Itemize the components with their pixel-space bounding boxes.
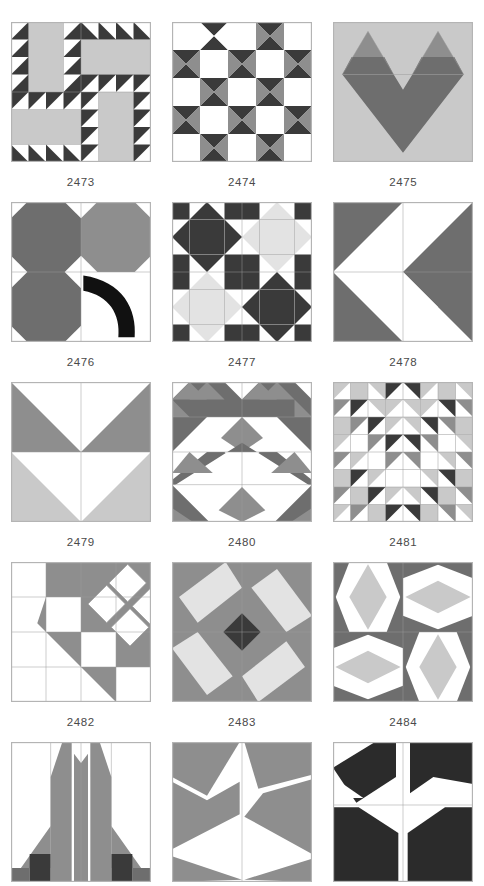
quilt-block-2481 — [333, 382, 473, 522]
block-cell-2484[interactable]: 2484 — [323, 562, 484, 742]
quilt-block-row5-a — [11, 742, 151, 882]
quilt-block-2482 — [11, 562, 151, 702]
block-cell-2473[interactable]: 2473 — [0, 22, 161, 202]
quilt-block-grid: 2473 — [0, 0, 484, 886]
quilt-block-2473 — [11, 22, 151, 162]
quilt-block-2480 — [172, 382, 312, 522]
quilt-block-2475 — [333, 22, 473, 162]
block-label-2484: 2484 — [389, 716, 417, 728]
quilt-block-2479 — [11, 382, 151, 522]
block-label-2482: 2482 — [67, 716, 95, 728]
quilt-block-2484 — [333, 562, 473, 702]
quilt-block-2476 — [11, 202, 151, 342]
block-cell-2474[interactable]: 2474 — [161, 22, 322, 202]
block-cell-2477[interactable]: 2477 — [161, 202, 322, 382]
block-label-2476: 2476 — [67, 356, 95, 368]
block-cell-2481[interactable]: 2481 — [323, 382, 484, 562]
block-cell-2476[interactable]: 2476 — [0, 202, 161, 382]
quilt-block-row5-b — [172, 742, 312, 882]
quilt-block-2483 — [172, 562, 312, 702]
block-cell-2480[interactable]: 2480 — [161, 382, 322, 562]
block-label-2483: 2483 — [228, 716, 256, 728]
block-label-2475: 2475 — [389, 176, 417, 188]
block-cell-2483[interactable]: 2483 — [161, 562, 322, 742]
quilt-block-2474 — [172, 22, 312, 162]
quilt-block-2477 — [172, 202, 312, 342]
block-label-2480: 2480 — [228, 536, 256, 548]
block-cell-2478[interactable]: 2478 — [323, 202, 484, 382]
block-cell-row5-c[interactable] — [323, 742, 484, 886]
block-label-2477: 2477 — [228, 356, 256, 368]
block-cell-row5-a[interactable] — [0, 742, 161, 886]
block-cell-2479[interactable]: 2479 — [0, 382, 161, 562]
block-label-2473: 2473 — [67, 176, 95, 188]
block-cell-2475[interactable]: 2475 — [323, 22, 484, 202]
block-label-2478: 2478 — [389, 356, 417, 368]
block-label-2479: 2479 — [67, 536, 95, 548]
block-cell-row5-b[interactable] — [161, 742, 322, 886]
block-cell-2482[interactable]: 2482 — [0, 562, 161, 742]
block-label-2474: 2474 — [228, 176, 256, 188]
block-label-2481: 2481 — [389, 536, 417, 548]
quilt-block-2478 — [333, 202, 473, 342]
quilt-block-row5-c — [333, 742, 473, 882]
